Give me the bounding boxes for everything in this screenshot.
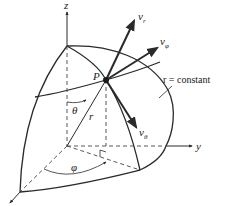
projection-lines <box>44 80 140 174</box>
v-phi-label: vφ <box>160 35 169 50</box>
radius-label: r <box>89 110 94 122</box>
x-axis-dashed <box>20 146 67 192</box>
theta-label: θ <box>72 104 78 116</box>
sphere-surface <box>20 46 173 192</box>
z-axis-label: z <box>63 0 69 11</box>
right-angle-marker <box>100 150 106 157</box>
surface-label: r = constant <box>163 74 211 85</box>
y-axis-label: y <box>195 140 201 152</box>
phi-label: φ <box>71 161 77 173</box>
velocity-vectors <box>106 21 157 127</box>
projection-ray <box>67 146 140 170</box>
spherical-coordinates-diagram: z y P vr vφ vθ r = constant θ r φ <box>0 0 228 206</box>
point-p <box>103 77 109 83</box>
v-r-label: vr <box>138 10 146 25</box>
meridian-xz <box>20 46 67 192</box>
point-p-label: P <box>92 70 100 82</box>
v-theta-label: vθ <box>139 126 148 141</box>
x-axis <box>10 192 20 203</box>
theta-arc <box>67 100 86 103</box>
equator-arc <box>20 146 166 192</box>
v-theta-vector <box>106 80 136 127</box>
meridian-yz <box>67 46 173 146</box>
